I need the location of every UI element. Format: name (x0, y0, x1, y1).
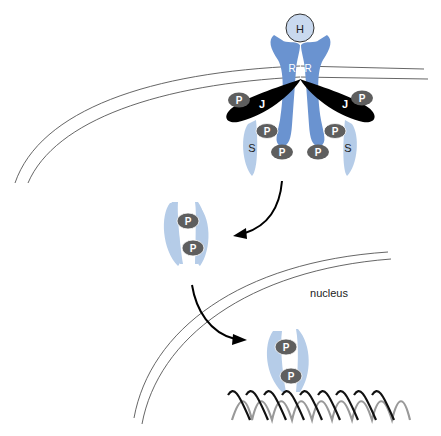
diagram-canvas: H R R J J S S P P P P P P (0, 0, 441, 436)
nucleus-label: nucleus (310, 287, 348, 299)
phosphate-stat-left: P (256, 124, 278, 139)
phosphate-jak-left: P (228, 93, 250, 108)
jak-right-label: J (342, 98, 348, 110)
phosphate-stat-right: P (324, 124, 346, 139)
dna-helix (228, 391, 410, 420)
phosphate-jak-right: P (351, 91, 373, 106)
stat-dimer-nucleus: P P (267, 329, 309, 392)
hormone: H (286, 14, 314, 42)
arrow-to-stat-dimer (233, 181, 282, 239)
svg-text:P: P (315, 147, 322, 158)
phosphate-receptor-right: P (307, 145, 329, 160)
svg-text:P: P (359, 93, 366, 104)
phosphate-label: P (288, 371, 295, 382)
stat-right-label: S (344, 142, 351, 154)
receptor-right-label: R (304, 63, 311, 74)
stat-left-label: S (248, 142, 255, 154)
receptor-left-label: R (288, 63, 295, 74)
cell-membrane (15, 66, 428, 183)
phosphate-label: P (185, 216, 192, 227)
svg-text:P: P (264, 126, 271, 137)
phosphate-receptor-left: P (271, 145, 293, 160)
arrow-into-nucleus (192, 285, 247, 345)
hormone-label: H (296, 23, 304, 35)
phosphate-label: P (283, 342, 290, 353)
nuclear-membrane (134, 252, 391, 424)
svg-text:P: P (236, 95, 243, 106)
phosphate-label: P (190, 243, 197, 254)
svg-text:P: P (332, 126, 339, 137)
stat-dimer-cytoplasm: P P (164, 202, 209, 266)
jak-left-label: J (259, 98, 265, 110)
svg-text:P: P (279, 147, 286, 158)
